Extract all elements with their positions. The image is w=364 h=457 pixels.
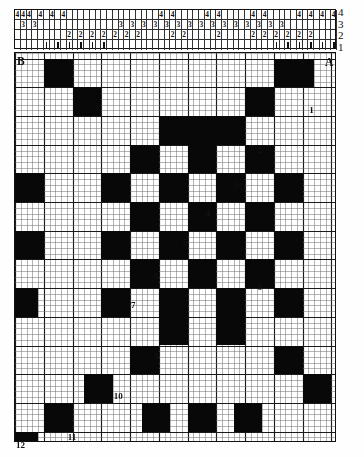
pattern-block[interactable]	[159, 116, 188, 145]
threading-cell[interactable]: 4	[331, 10, 337, 20]
pattern-block[interactable]	[15, 288, 38, 317]
threading-row-shaft-2[interactable]: 2222222222222222	[15, 30, 335, 40]
pattern-block[interactable]	[101, 173, 130, 202]
threading-cell[interactable]	[331, 20, 337, 30]
pattern-block[interactable]	[234, 403, 263, 432]
threading-row-shaft-1[interactable]	[15, 40, 335, 50]
shaft-axis-labels: 4 3 2 1	[338, 7, 358, 53]
threading-header[interactable]: 4444444444444444333333333333333332222222…	[14, 9, 336, 49]
pattern-marker-5: 5	[183, 238, 188, 247]
pattern-block[interactable]	[216, 116, 245, 145]
pattern-block[interactable]	[188, 145, 217, 174]
pattern-marker-7: 7	[131, 301, 136, 310]
pattern-block[interactable]	[188, 202, 217, 231]
threading-row-shaft-4[interactable]: 4444444444444444	[15, 10, 335, 20]
pattern-block[interactable]	[274, 346, 303, 375]
pattern-block[interactable]	[188, 403, 217, 432]
pattern-block[interactable]	[15, 231, 44, 260]
weaving-draft-page: 4444444444444444333333333333333332222222…	[0, 0, 364, 457]
corner-label-b: B	[17, 55, 25, 67]
corner-label-a: A	[325, 56, 333, 68]
pattern-block[interactable]	[188, 116, 217, 145]
pattern-marker-11: 11	[68, 433, 77, 442]
pattern-block[interactable]	[44, 59, 73, 88]
pattern-marker-1: 1	[309, 106, 314, 115]
threading-cell[interactable]	[331, 40, 337, 50]
pattern-block[interactable]	[44, 403, 73, 432]
drawdown-grid[interactable]: 123456789101112	[14, 52, 336, 442]
pattern-block[interactable]	[188, 259, 217, 288]
pattern-block[interactable]	[142, 403, 171, 432]
pattern-block[interactable]	[159, 317, 188, 346]
threading-row-shaft-3[interactable]: 33333333333333333	[15, 20, 335, 30]
pattern-marker-4: 4	[206, 209, 211, 218]
pattern-marker-9: 9	[154, 352, 159, 361]
pattern-marker-2: 2	[258, 146, 263, 155]
pattern-block[interactable]	[130, 145, 159, 174]
threading-cell[interactable]	[331, 30, 337, 40]
pattern-block[interactable]	[216, 288, 245, 317]
pattern-block[interactable]	[130, 202, 159, 231]
pattern-block[interactable]	[216, 231, 245, 260]
shaft-label-1: 1	[338, 42, 358, 54]
pattern-marker-8: 8	[258, 283, 263, 292]
pattern-marker-10: 10	[114, 392, 123, 401]
pattern-block[interactable]	[274, 231, 303, 260]
pattern-block[interactable]	[245, 202, 274, 231]
pattern-block[interactable]	[245, 87, 274, 116]
pattern-block[interactable]	[303, 374, 332, 403]
pattern-marker-6: 6	[154, 272, 159, 281]
pattern-block[interactable]	[84, 374, 113, 403]
pattern-block[interactable]	[15, 173, 44, 202]
pattern-block[interactable]	[159, 173, 188, 202]
pattern-block[interactable]	[101, 288, 130, 317]
pattern-block[interactable]	[216, 173, 245, 202]
shaft-label-4: 4	[338, 7, 358, 19]
pattern-block[interactable]	[73, 87, 102, 116]
corner-label-twelve: 12	[16, 440, 25, 450]
pattern-block[interactable]	[274, 59, 314, 88]
pattern-block[interactable]	[216, 317, 245, 346]
pattern-block[interactable]	[101, 231, 130, 260]
pattern-block[interactable]	[274, 173, 303, 202]
shaft-label-2: 2	[338, 30, 358, 42]
pattern-block[interactable]	[274, 288, 303, 317]
pattern-block[interactable]	[159, 288, 188, 317]
pattern-marker-3: 3	[235, 180, 240, 189]
